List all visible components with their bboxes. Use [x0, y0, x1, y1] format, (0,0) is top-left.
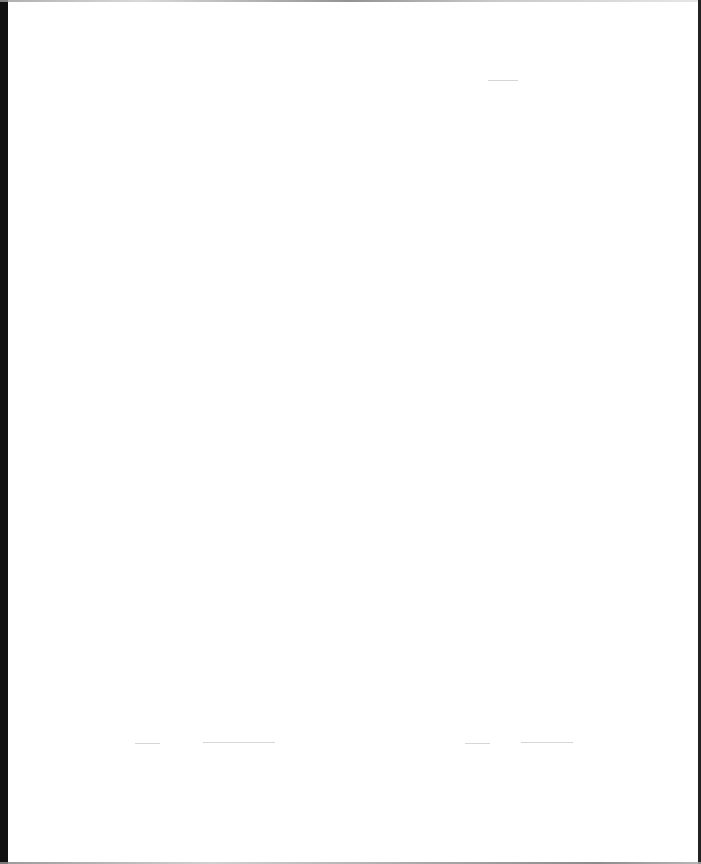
scanned-page	[0, 0, 701, 864]
page-body	[8, 2, 698, 862]
faint-mark	[135, 743, 160, 744]
faint-mark	[521, 742, 573, 743]
faint-mark	[203, 742, 275, 743]
faint-mark	[465, 743, 490, 744]
left-scan-border	[0, 0, 8, 864]
faint-mark	[488, 80, 518, 81]
